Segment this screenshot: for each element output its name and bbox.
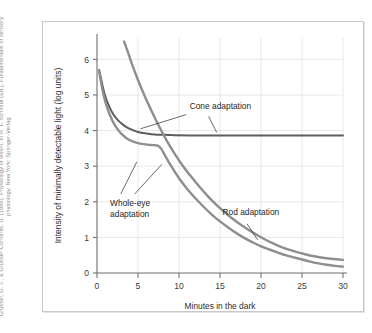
x-tick-label: 0 bbox=[95, 281, 100, 291]
figure-frame: 0123456051015202530 Cone adaptationWhole… bbox=[42, 21, 364, 312]
x-tick-label: 10 bbox=[174, 281, 184, 291]
series-line-rod-adaptation bbox=[124, 42, 343, 260]
y-tick-label: 2 bbox=[84, 197, 89, 207]
annotation-leader-line bbox=[140, 115, 186, 129]
annotation-leader-line bbox=[209, 116, 217, 132]
dark-adaptation-chart: 0123456051015202530 Cone adaptationWhole… bbox=[43, 22, 363, 311]
annotation-leader-line bbox=[135, 164, 162, 194]
y-tick-label: 6 bbox=[84, 55, 89, 65]
x-tick-label: 15 bbox=[215, 281, 225, 291]
x-tick-label: 25 bbox=[297, 281, 307, 291]
y-tick-label: 3 bbox=[84, 161, 89, 171]
y-tick-label: 5 bbox=[84, 90, 89, 100]
y-axis-title: Intensity of minimally detectable light … bbox=[53, 68, 63, 244]
annotation-label: Whole-eye bbox=[110, 198, 150, 208]
annotation-label-layer: Cone adaptationWhole-eyeadaptationRod ad… bbox=[110, 101, 279, 219]
x-axis-title: Minutes in the dark bbox=[185, 301, 257, 311]
source-citation-text: Grusser, O. J., & Grusser-Cornehls, U. (… bbox=[0, 17, 13, 317]
y-tick-label: 1 bbox=[84, 233, 89, 243]
annotation-label: Rod adaptation bbox=[222, 207, 279, 217]
annotation-label: Cone adaptation bbox=[190, 101, 252, 111]
annotation-leader-line bbox=[121, 162, 137, 194]
y-tick-label: 0 bbox=[84, 268, 89, 278]
x-tick-label: 20 bbox=[256, 281, 266, 291]
annotation-label: adaptation bbox=[110, 209, 149, 219]
y-tick-label: 4 bbox=[84, 126, 89, 136]
grid-layer bbox=[97, 38, 343, 273]
series-layer bbox=[99, 42, 343, 267]
source-citation: Grusser, O. J., & Grusser-Cornehls, U. (… bbox=[0, 0, 26, 333]
x-tick-label: 5 bbox=[136, 281, 141, 291]
x-tick-label: 30 bbox=[338, 281, 348, 291]
